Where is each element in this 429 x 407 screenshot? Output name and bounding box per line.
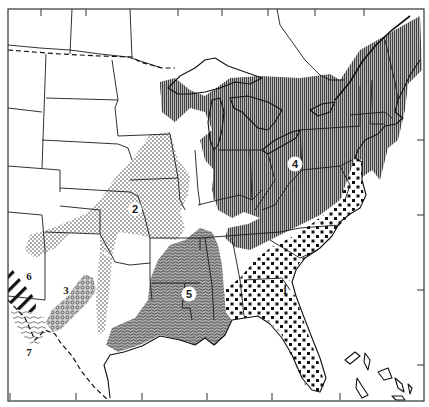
svg-text:6: 6 (26, 270, 32, 282)
svg-text:3: 3 (63, 284, 69, 296)
svg-text:5: 5 (186, 288, 192, 300)
map-svg: 1 2 3 4 5 6 7 (0, 0, 429, 407)
range-map: 1 2 3 4 5 6 7 (0, 0, 429, 407)
zone-label-7: 7 (26, 346, 32, 358)
zone-label-2: 2 (128, 202, 142, 216)
zone-label-6: 6 (26, 270, 32, 282)
zone-label-4: 4 (288, 157, 303, 172)
svg-text:7: 7 (26, 346, 32, 358)
zone-label-5: 5 (182, 287, 197, 302)
zone-label-3: 3 (63, 284, 69, 296)
svg-text:4: 4 (292, 158, 299, 170)
svg-text:2: 2 (132, 203, 138, 215)
zone-label-1: 1 (282, 284, 288, 296)
svg-text:1: 1 (282, 284, 288, 296)
